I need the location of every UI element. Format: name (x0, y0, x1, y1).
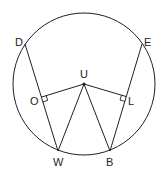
label-w: W (53, 156, 64, 168)
segment-ub (84, 84, 110, 151)
diagram-svg: D E U O L W B (0, 0, 161, 174)
chord-eb (110, 44, 142, 151)
label-d: D (15, 36, 23, 48)
label-l: L (128, 95, 134, 107)
label-b: B (106, 156, 113, 168)
segment-ul (84, 84, 126, 97)
label-o: O (30, 95, 39, 107)
geometry-diagram: D E U O L W B (0, 0, 161, 174)
segment-uo (41, 84, 84, 97)
segment-uw (58, 84, 84, 151)
center-point-u (82, 82, 85, 85)
label-u: U (80, 68, 88, 80)
label-e: E (144, 36, 151, 48)
